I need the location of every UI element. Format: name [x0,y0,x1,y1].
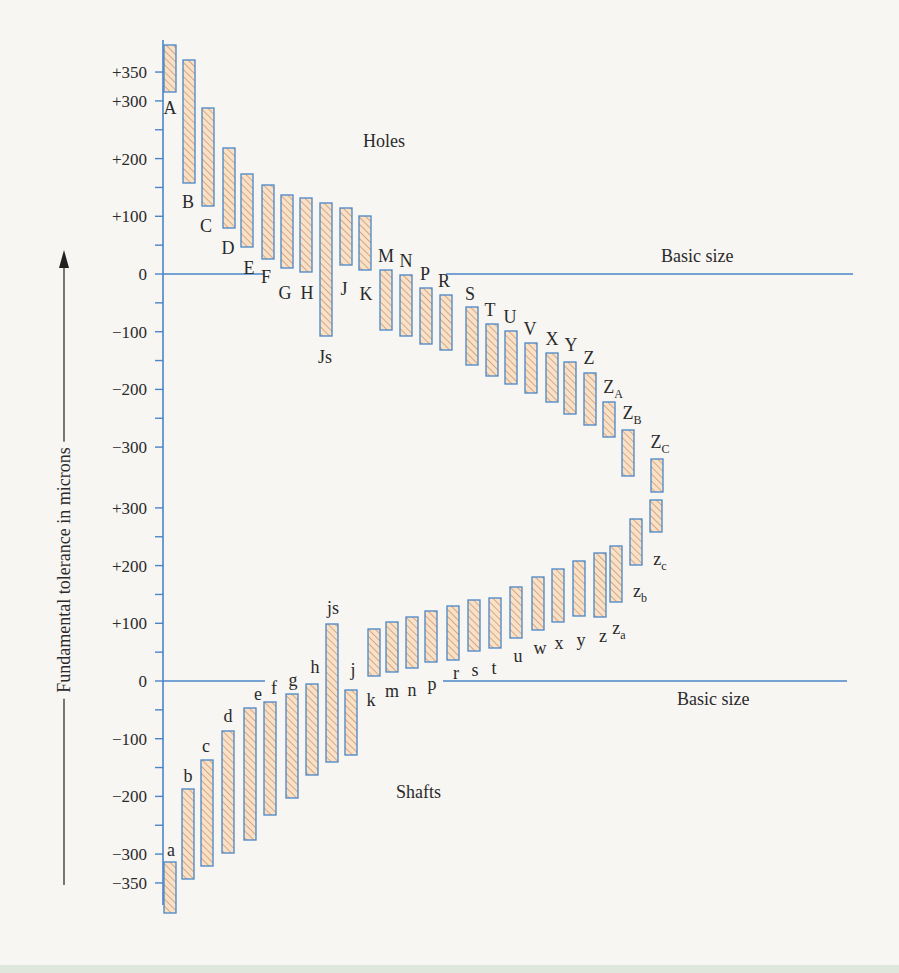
shaft-bar-e: e [244,684,262,840]
shaft-bar-js: js [326,598,339,762]
hole-bar-y: Y [564,335,578,414]
shaft-label: x [555,633,564,653]
shaft-bar-h: h [306,657,320,775]
shaft-bar-za: za [610,546,626,642]
lower-axis-tick-label: +300 [112,499,147,518]
shaft-label: js [326,598,339,618]
shaft-bar-d: d [222,706,234,853]
hole-bar-t: T [485,300,499,376]
shaft-bar-n: n [406,617,418,700]
shaft-bar-u: u [510,587,523,666]
shaft-label: f [271,678,277,698]
hole-bar-z: Z [584,348,597,425]
hole-label: S [465,284,475,304]
upper-axis-tick-label: −200 [112,380,147,399]
arrow-up-icon [59,250,69,268]
shaft-label: j [349,660,355,680]
hole-bar-g: G [279,195,294,303]
shaft-label: z [599,626,607,646]
shaft-label: y [577,630,586,650]
hole-bar-v: V [524,319,538,393]
shaft-label: r [453,663,459,683]
shaft-bar-zb: zb [630,519,647,605]
shaft-bar-k: k [367,629,381,710]
hole-label: Js [318,347,332,367]
hole-label: H [301,283,314,303]
hole-bar-d: D [222,148,236,258]
tolerance-zone-diagram: +350+300+200+1000−100−200−300+300+200+10… [0,0,899,973]
shaft-bar-j: j [345,660,357,755]
basic-size-label-holes: Basic size [661,246,733,267]
shaft-label: d [224,706,233,726]
hole-bar-j: J [340,208,352,299]
lower-axis-tick-label: 0 [139,672,148,691]
upper-axis-tick-label: +100 [112,207,147,226]
hole-bar-h: H [300,198,314,303]
shaft-bar-r: r [447,606,459,683]
shaft-label: c [202,736,210,756]
hole-bar-m: M [378,246,394,330]
shaft-bar-y: y [573,561,586,650]
shaft-bar-zc: zc [650,500,667,573]
shaft-bar-b: b [182,766,194,879]
hole-label: X [546,329,559,349]
shaft-label: n [408,680,417,700]
upper-axis-tick-label: 0 [139,265,148,284]
hole-bar-k: K [359,216,373,304]
hole-tolerance-bars: ABCDEFGHJsJKMNPRSTUVXYZZAZBZC [164,45,670,492]
upper-axis-tick-label: +350 [112,63,147,82]
hole-bar-x: X [546,329,559,402]
hole-bar-r: R [438,271,452,350]
hole-label: E [244,258,255,278]
hole-label: ZA [603,377,623,401]
page-edge-strip [0,965,899,973]
shaft-label: s [471,660,478,680]
upper-axis-tick-label: +200 [112,150,147,169]
hole-label: Y [565,335,578,355]
shaft-label: k [367,690,376,710]
shaft-label: za [612,618,626,642]
shaft-label: e [254,684,262,704]
shaft-label: g [289,670,298,690]
hole-bar-zb: ZB [622,403,642,476]
shaft-label: t [491,658,496,678]
shaft-bar-m: m [385,622,399,701]
hole-bar-js: Js [318,203,332,367]
shaft-label: m [385,681,399,701]
axis-ticks [155,72,163,883]
axis-tick-labels: +350+300+200+1000−100−200−300+300+200+10… [112,63,147,893]
hole-bar-b: B [182,60,195,212]
hole-bar-c: C [200,108,214,236]
hole-label: ZC [650,432,669,456]
hole-bar-a: A [164,45,177,118]
hole-bar-n: N [400,251,413,336]
lower-axis-tick-label: +200 [112,557,147,576]
lower-axis-tick-label: −300 [112,845,147,864]
shafts-label: Shafts [396,782,441,803]
hole-label: Z [584,348,595,368]
hole-bar-e: E [241,174,255,278]
shaft-label: w [534,638,547,658]
shaft-bar-x: x [552,569,564,653]
hole-label: B [182,192,194,212]
hole-label: P [420,264,430,284]
shaft-label: p [428,674,437,694]
hole-label: G [279,283,292,303]
upper-axis-tick-label: +300 [112,92,147,111]
shaft-label: h [311,657,320,677]
shaft-label: zb [633,581,647,605]
hole-bar-s: S [465,284,478,365]
hole-bar-p: P [420,264,432,344]
shaft-bar-a: a [164,840,176,913]
hole-label: F [261,267,271,287]
basic-size-label-shafts: Basic size [677,689,749,710]
hole-bar-za: ZA [603,377,623,437]
hole-label: ZB [622,403,641,427]
upper-axis-tick-label: −100 [112,323,147,342]
hole-label: N [400,251,413,271]
hole-label: K [360,284,373,304]
holes-label: Holes [363,131,405,152]
shaft-bar-w: w [532,577,547,658]
hole-label: V [524,319,537,339]
shaft-label: b [184,766,193,786]
